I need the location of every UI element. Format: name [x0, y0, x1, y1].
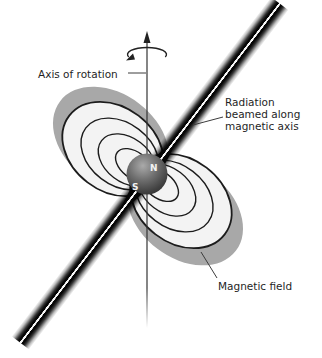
radiation-label-line2: beamed along [225, 108, 300, 120]
rotation-axis-arrowhead-icon [144, 31, 151, 43]
radiation-label-line3: magnetic axis [225, 120, 299, 132]
pulsar-diagram: N S Axis of rotation Radiation beamed al… [0, 0, 322, 358]
radiation-label-line1: Radiation [225, 96, 275, 108]
south-pole-label: S [132, 182, 138, 192]
pulsar-diagram-canvas: N S Axis of rotation Radiation beamed al… [0, 0, 322, 358]
rotation-arrow [126, 47, 167, 60]
north-pole-label: N [150, 163, 158, 173]
magnetic-field-label: Magnetic field [218, 280, 292, 292]
axis-of-rotation-label: Axis of rotation [38, 68, 118, 80]
